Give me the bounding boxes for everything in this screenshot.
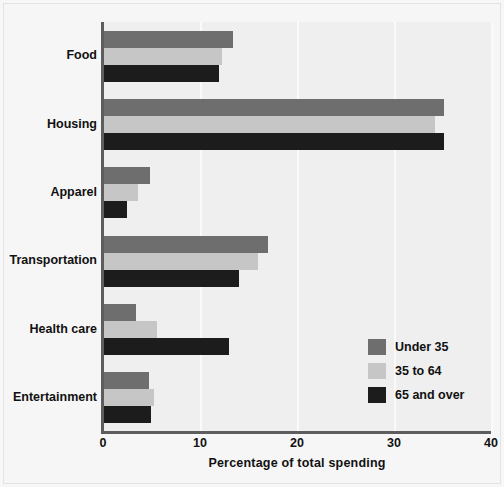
category-axis-labels: FoodHousingApparelTransportationHealth c…	[0, 22, 97, 432]
bar	[103, 389, 154, 406]
x-tick-label: 20	[290, 436, 304, 450]
gridline	[297, 22, 299, 432]
legend-swatch-icon	[368, 339, 386, 355]
bar	[103, 338, 229, 355]
legend-item[interactable]: 35 to 64	[368, 360, 480, 382]
category-label: Health care	[1, 322, 97, 336]
bar-group	[103, 99, 491, 150]
bar	[103, 65, 219, 82]
x-axis-line	[101, 431, 491, 434]
bar	[103, 201, 127, 218]
bar	[103, 304, 136, 321]
legend-label: 35 to 64	[395, 364, 442, 378]
bar	[103, 99, 444, 116]
bar	[103, 372, 149, 389]
category-label: Entertainment	[1, 390, 97, 404]
bar	[103, 321, 157, 338]
bar	[103, 406, 151, 423]
bar	[103, 236, 268, 253]
gridline	[200, 22, 202, 432]
chart-figure: FoodHousingApparelTransportationHealth c…	[0, 0, 504, 487]
x-axis-tick-labels: 010203040	[103, 436, 491, 454]
bar	[103, 48, 222, 65]
legend-item[interactable]: 65 and over	[368, 384, 480, 406]
y-axis-line	[101, 22, 104, 433]
bar	[103, 133, 444, 150]
gridline	[491, 22, 493, 432]
x-axis-title: Percentage of total spending	[103, 456, 491, 470]
bar	[103, 184, 138, 201]
category-label: Housing	[1, 117, 97, 131]
bar	[103, 167, 150, 184]
legend-item[interactable]: Under 35	[368, 336, 480, 358]
bar	[103, 116, 435, 133]
bar-group	[103, 31, 491, 82]
x-tick-label: 40	[484, 436, 498, 450]
bar	[103, 253, 258, 270]
legend-swatch-icon	[368, 387, 386, 403]
category-label: Food	[1, 48, 97, 62]
bar-group	[103, 236, 491, 287]
category-label: Apparel	[1, 185, 97, 199]
bar	[103, 270, 239, 287]
x-tick-label: 30	[387, 436, 401, 450]
legend-swatch-icon	[368, 363, 386, 379]
x-tick-label: 0	[100, 436, 107, 450]
bar-group	[103, 167, 491, 218]
x-tick-label: 10	[193, 436, 207, 450]
bar	[103, 31, 233, 48]
legend-label: Under 35	[395, 340, 449, 354]
chart-legend: Under 3535 to 6465 and over	[368, 336, 480, 408]
legend-label: 65 and over	[395, 388, 464, 402]
category-label: Transportation	[1, 253, 97, 267]
